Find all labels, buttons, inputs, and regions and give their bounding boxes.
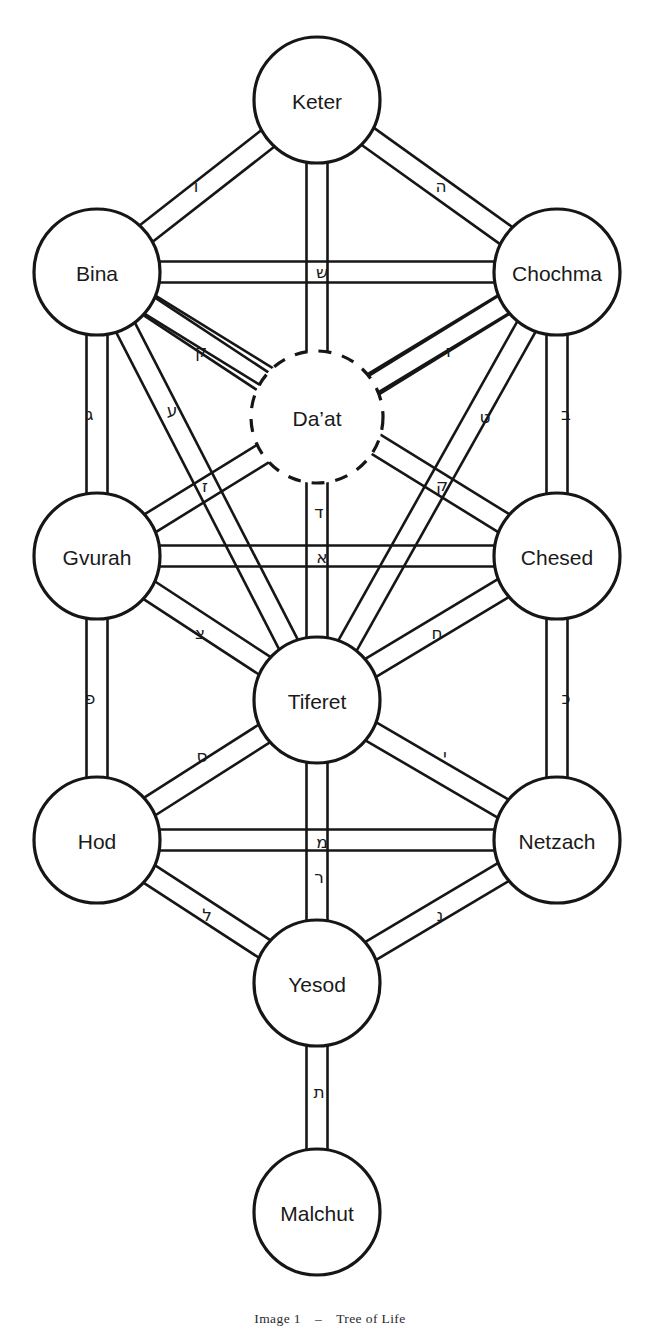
caption-dash: –: [315, 1311, 322, 1326]
path-rail: [365, 740, 498, 817]
sefira-daat[interactable]: Da’at: [251, 351, 383, 483]
path-letter-ayin: ע: [167, 400, 178, 420]
path-letter-hey: ה: [435, 176, 446, 196]
sefira-label: Keter: [292, 90, 342, 113]
path-letter-yod: י: [443, 745, 447, 765]
path-letter-dalet: ד: [314, 502, 323, 522]
path-band: [365, 722, 508, 818]
sefira-label: Chochma: [512, 262, 602, 285]
path-letter-vav: ו: [194, 176, 199, 196]
sefira-label: Yesod: [288, 973, 346, 996]
sefira-malchut[interactable]: Malchut: [254, 1149, 380, 1275]
sefira-netzach[interactable]: Netzach: [494, 777, 620, 903]
path-letter-tet: ט: [479, 407, 490, 427]
path-letter-tzadi: צ: [195, 623, 205, 643]
path-letter-shin: ש: [316, 262, 328, 282]
path-band: [139, 130, 274, 242]
path-letter-zayin: ז: [446, 341, 452, 361]
sefira-label: Chesed: [521, 546, 593, 569]
path-letter-zayin: ז: [202, 476, 208, 496]
path-letter-resh: ר: [314, 867, 324, 887]
path-letter-alef: א: [316, 547, 327, 567]
figure-caption: Image 1–Tree of Life: [0, 1311, 660, 1327]
tree-of-life-svg: KeterBinaChochmaDa’atGvurahChesedTiferet…: [0, 0, 660, 1330]
path-letter-chet: ח: [431, 623, 442, 643]
sefira-label: Tiferet: [288, 690, 347, 713]
sefira-yesod[interactable]: Yesod: [254, 920, 380, 1046]
path-letter-kuf: ק: [195, 341, 207, 361]
sefira-tiferet[interactable]: Tiferet: [254, 637, 380, 763]
sefira-hod[interactable]: Hod: [34, 777, 160, 903]
path-letter-nun: נ: [437, 905, 444, 925]
sefira-keter[interactable]: Keter: [254, 37, 380, 163]
caption-title: Tree of Life: [336, 1311, 406, 1326]
path-band: [144, 724, 270, 815]
sefira-chochma[interactable]: Chochma: [494, 209, 620, 335]
sefira-gvurah[interactable]: Gvurah: [34, 493, 160, 619]
path-letter-samech: ס: [196, 746, 207, 766]
path-letter-bet: ב: [561, 404, 571, 424]
sefira-label: Hod: [78, 830, 117, 853]
sefira-chesed[interactable]: Chesed: [494, 493, 620, 619]
path-rail: [365, 579, 498, 659]
path-rail: [139, 130, 261, 225]
sefira-label: Bina: [76, 262, 118, 285]
path-letter-kuf: ק: [436, 475, 448, 495]
path-letter-lamed: ל: [202, 905, 212, 925]
sefira-label: Malchut: [280, 1202, 354, 1225]
sefira-label: Gvurah: [63, 546, 132, 569]
sefira-label: Netzach: [518, 830, 595, 853]
sefira-label: Da’at: [292, 407, 341, 430]
path-letter-pe: פ: [85, 688, 96, 708]
tree-of-life-figure: KeterBinaChochmaDa’atGvurahChesedTiferet…: [0, 0, 660, 1330]
path-band: [307, 162, 328, 352]
path-letter-tav: ת: [313, 1082, 324, 1102]
path-rail: [338, 321, 517, 641]
sefira-bina[interactable]: Bina: [34, 209, 160, 335]
path-rail: [365, 863, 498, 942]
path-rail: [152, 147, 274, 242]
path-rail: [361, 145, 500, 245]
caption-prefix: Image 1: [254, 1311, 301, 1326]
path-letter-gimel: ג: [86, 404, 93, 424]
path-band: [367, 295, 509, 392]
path-letter-mem: מ: [316, 832, 328, 852]
path-letter-kaf: כ: [562, 688, 571, 708]
